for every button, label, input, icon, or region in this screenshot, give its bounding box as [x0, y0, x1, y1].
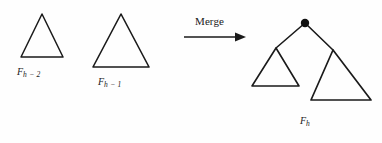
merge-arrow-icon: [184, 33, 246, 42]
label-triangle-fh2: Fh − 2: [17, 66, 40, 79]
merge-figure: Merge Fh − 2 Fh − 1 Fh: [0, 0, 382, 143]
root-node-dot: [301, 19, 309, 27]
label-triangle-fh1: Fh − 1: [98, 76, 121, 89]
label-fh1-subscript: h − 1: [104, 80, 121, 89]
merge-label: Merge: [195, 15, 224, 27]
triangle-left-child: [252, 48, 299, 86]
triangle-right-child: [311, 50, 371, 100]
label-fh2-subscript: h − 2: [23, 70, 40, 79]
triangle-fh2: [21, 14, 63, 57]
triangle-fh1: [93, 14, 149, 67]
label-result-tree-fh: Fh: [300, 115, 310, 128]
label-fh-subscript: h: [306, 119, 310, 128]
diagram-canvas: [0, 0, 382, 143]
